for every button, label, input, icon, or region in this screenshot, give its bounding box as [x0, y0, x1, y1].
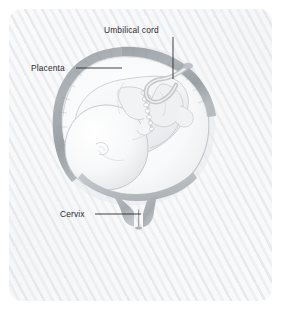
label-cervix: Cervix	[60, 210, 85, 218]
fetus-in-uterus-illustration	[0, 0, 281, 310]
cord-placental-insertion	[183, 63, 193, 69]
external-os	[135, 227, 142, 230]
label-umbilical-cord: Umbilical cord	[104, 26, 159, 34]
label-placenta: Placenta	[31, 64, 65, 72]
figure-panel: Umbilical cord Placenta Cervix	[0, 0, 281, 310]
